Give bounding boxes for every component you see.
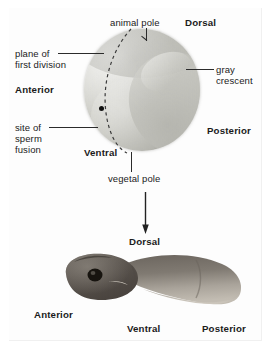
plate-top-margin: [0, 0, 270, 8]
tadpole-larva-photograph: [52, 246, 248, 316]
leader-vegetal-pole: [131, 152, 132, 172]
tadpole-tail-trunk: [122, 255, 241, 304]
label-site-of-sperm-fusion-line1: site of: [15, 122, 41, 134]
tadpole-eye: [88, 269, 103, 282]
label-ventral-tadpole: Ventral: [127, 323, 160, 335]
tadpole-eye-glint: [91, 271, 96, 275]
leader-site-of-sperm-fusion: [49, 127, 98, 128]
label-plane-of-first-division-line2: first division: [15, 59, 66, 71]
development-arrow: [140, 192, 151, 234]
label-anterior-egg: Anterior: [15, 84, 54, 96]
sperm-fusion-point-marker: [99, 106, 104, 111]
first-division-plane-dashed-arc: [87, 27, 197, 153]
label-ventral-egg: Ventral: [84, 147, 117, 159]
label-site-of-sperm-fusion-line3: fusion: [15, 144, 41, 156]
amphibian-egg-sphere: [84, 29, 200, 151]
label-gray-crescent-line2: crescent: [216, 75, 253, 87]
label-gray-crescent-line1: gray: [216, 64, 235, 76]
label-vegetal-pole: vegetal pole: [108, 173, 160, 185]
label-posterior-tadpole: Posterior: [202, 323, 246, 335]
label-site-of-sperm-fusion-line2: sperm: [15, 133, 42, 145]
leader-plane-of-first-division: [58, 53, 104, 54]
amphibian-axis-determination-figure: animal pole Dorsal plane of first divisi…: [0, 0, 270, 349]
label-animal-pole: animal pole: [110, 17, 160, 29]
leader-gray-crescent: [186, 69, 214, 70]
label-anterior-tadpole: Anterior: [34, 309, 73, 321]
label-posterior-egg: Posterior: [207, 125, 251, 137]
label-plane-of-first-division-line1: plane of: [15, 48, 50, 60]
plate-left-margin: [0, 0, 9, 349]
label-dorsal-egg: Dorsal: [185, 17, 216, 29]
